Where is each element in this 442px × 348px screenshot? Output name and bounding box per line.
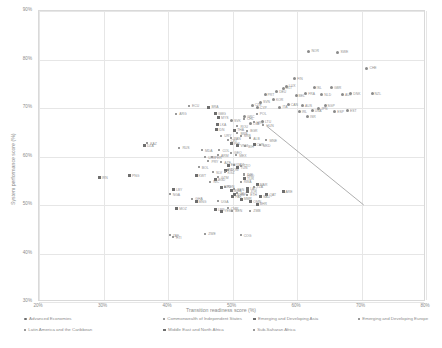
legend-label: Sub-Saharan Africa — [257, 327, 295, 332]
data-point-label: IRL — [302, 110, 307, 114]
data-point-label: ISR — [310, 115, 316, 119]
data-point-marker — [188, 105, 190, 107]
data-point-label: BRB — [240, 132, 247, 136]
data-point-marker — [175, 207, 178, 210]
data-point-label: SLV — [216, 171, 222, 175]
data-point-label: PRT — [268, 93, 275, 97]
data-point-label: KWT — [199, 174, 207, 178]
data-point-label: ALB — [253, 137, 259, 141]
data-point-marker — [214, 208, 217, 211]
data-point-label: MNE — [269, 139, 277, 143]
data-point-label: QAT — [269, 193, 276, 197]
legend-item[interactable]: Emerging and Developing Europe — [358, 316, 428, 321]
data-point-marker — [264, 93, 267, 96]
data-point-marker — [169, 193, 171, 195]
gridline-vertical — [362, 11, 363, 300]
data-point-marker — [249, 200, 252, 203]
data-point-label: AUT — [345, 93, 352, 97]
data-point-label: FIN — [297, 77, 302, 81]
data-point-label: NIC — [213, 180, 219, 184]
data-point-marker — [282, 190, 285, 193]
data-point-marker — [224, 171, 226, 173]
legend-item[interactable]: Middle East and North Africa — [163, 327, 224, 332]
data-point-marker — [178, 147, 180, 149]
data-point-marker — [191, 198, 193, 200]
data-point-marker — [256, 113, 258, 115]
data-point-marker — [217, 200, 219, 202]
data-point-label: BGR — [250, 129, 257, 133]
data-point-marker — [233, 188, 235, 190]
data-point-marker — [236, 132, 238, 134]
data-point-marker — [240, 181, 242, 183]
y-axis-tick-label: 70% — [2, 104, 32, 109]
data-point-marker — [220, 135, 222, 137]
gridline-vertical — [104, 11, 105, 300]
data-point-label: ARG — [179, 112, 186, 116]
data-point-label: POL — [260, 112, 267, 116]
data-point-marker — [227, 169, 229, 171]
data-point-label: BIH — [248, 145, 254, 149]
data-point-marker — [244, 145, 246, 147]
gridline-horizontal — [39, 11, 424, 12]
legend-label: Commonwealth of Independent States — [167, 316, 242, 321]
data-point-label: ZMB — [253, 209, 260, 213]
data-point-label: CHL — [247, 117, 254, 121]
data-point-marker — [243, 118, 245, 120]
data-point-label: SAU — [263, 195, 270, 199]
data-point-label: KOR — [276, 98, 283, 102]
data-point-marker — [207, 106, 210, 109]
data-point-label: ARM — [221, 154, 229, 158]
data-point-marker — [236, 144, 239, 147]
data-point-marker — [231, 195, 234, 198]
data-point-label: ETH — [250, 193, 257, 197]
data-point-label: ZWE — [208, 232, 216, 236]
data-point-label: BEN — [235, 209, 242, 213]
gridline-horizontal — [39, 205, 424, 206]
data-point-label: MLT — [286, 86, 293, 90]
data-point-marker — [249, 137, 251, 139]
legend-item[interactable]: Commonwealth of Independent States — [163, 316, 242, 321]
data-point-marker — [251, 104, 254, 107]
y-axis-title: System performance score (%) — [10, 134, 16, 206]
data-point-marker — [218, 149, 220, 151]
data-point-marker — [236, 192, 238, 194]
data-point-marker — [217, 116, 220, 119]
data-point-marker — [243, 174, 245, 176]
data-point-marker — [224, 186, 226, 188]
data-point-label: KAZ — [150, 142, 157, 146]
gridline-vertical — [39, 11, 40, 300]
data-point-label: BEL — [299, 94, 305, 98]
data-point-label: OMN — [253, 200, 261, 204]
legend-item[interactable]: Emerging and Developing Asia — [253, 316, 318, 321]
legend-label: Emerging and Developing Asia — [258, 316, 318, 321]
legend-item[interactable]: Advanced Economies — [24, 316, 72, 321]
data-point-marker — [235, 154, 237, 156]
gridline-horizontal — [39, 302, 424, 303]
data-point-label: PNG — [132, 174, 139, 178]
gridline-horizontal — [39, 157, 424, 158]
data-point-marker — [371, 92, 374, 95]
data-point-label: TUN — [240, 166, 247, 170]
data-point-marker — [175, 113, 177, 115]
data-point-marker — [146, 142, 148, 144]
data-point-marker — [227, 207, 229, 209]
data-point-label: ROU — [240, 125, 248, 129]
data-point-label: CZE — [255, 103, 262, 107]
data-point-marker — [341, 93, 344, 96]
legend-marker-icon — [24, 329, 26, 331]
data-point-marker — [215, 128, 218, 131]
legend-label: Middle East and North Africa — [168, 327, 224, 332]
gridline-vertical — [297, 11, 298, 300]
legend-item[interactable]: Sub-Saharan Africa — [253, 327, 295, 332]
plot-area — [38, 10, 425, 301]
data-point-label: BOL — [202, 166, 209, 170]
data-point-label: LBY — [176, 188, 182, 192]
data-point-marker — [313, 86, 316, 89]
gridline-horizontal — [39, 108, 424, 109]
data-point-label: RWA — [244, 180, 252, 184]
data-point-label: MEX — [239, 154, 246, 158]
data-point-label: ITA — [282, 105, 287, 109]
data-point-marker — [236, 166, 239, 169]
legend-label: Advanced Economies — [29, 316, 71, 321]
legend-item[interactable]: Latin America and the Caribbean — [24, 327, 92, 332]
